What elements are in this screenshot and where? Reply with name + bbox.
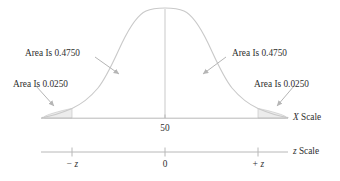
left-body-arrow: [95, 57, 119, 74]
z-axis-tick-label-minus-z: − z: [66, 160, 78, 169]
right-tail-area-label: Area Is 0.0250: [254, 80, 309, 89]
normal-distribution-figure: Area Is 0.4750 Area Is 0.0250 Area Is 0.…: [0, 0, 340, 181]
z-axis-tick-label-zero: 0: [163, 160, 168, 169]
right-body-area-label: Area Is 0.4750: [232, 49, 287, 58]
left-tail-area-label: Area Is 0.0250: [13, 80, 68, 89]
figure-canvas: [0, 0, 340, 181]
z-axis-tick-label-plus-z: + z: [252, 160, 264, 169]
x-scale-axis-label: X Scale: [293, 113, 321, 122]
right-body-arrow: [203, 57, 226, 74]
x-axis-mean-label: 50: [160, 124, 169, 133]
z-scale-axis-label: z Scale: [293, 147, 319, 156]
x-scale-word: Scale: [299, 112, 321, 122]
left-body-area-label: Area Is 0.4750: [25, 49, 80, 58]
z-scale-word: Scale: [297, 146, 319, 156]
